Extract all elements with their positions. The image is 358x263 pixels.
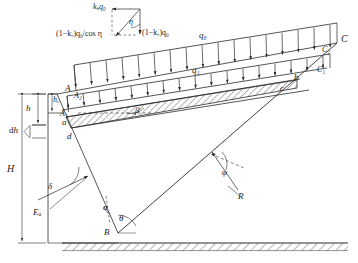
label-kh-q0: khq₀ (93, 3, 106, 12)
label-point-A2: A₂ (74, 92, 82, 100)
label-point-A: A (65, 84, 71, 93)
label-point-C1: C₁ (317, 66, 325, 74)
label-point-C: C (341, 34, 348, 44)
label-resultant-component: (1−kv)q₀/cos η (56, 30, 102, 39)
label-point-c: c (280, 84, 284, 93)
label-dim-hc: hc (53, 96, 59, 105)
label-point-d: d (67, 132, 72, 141)
label-vertical-component: (1−kv)q₀ (142, 29, 169, 38)
label-point-B: B (104, 228, 110, 237)
label-q0: q₀ (199, 31, 207, 40)
phi-dashed-normal (211, 154, 244, 168)
label-dim-h: h (26, 104, 31, 113)
failure-surface-BC (118, 43, 337, 233)
label-angle-phi: φ (222, 168, 227, 177)
label-q1: q₁ (192, 66, 200, 75)
diagram-svg (0, 0, 358, 263)
force-Ea (38, 167, 88, 209)
line-d-b (71, 90, 309, 128)
resultant-arrow (116, 9, 140, 36)
label-eta-angle: η (129, 18, 133, 26)
force-R (211, 152, 244, 196)
label-angle-delta: αδ (48, 182, 52, 191)
label-force-Ea: Ea (33, 208, 41, 218)
label-angle-beta: β (135, 106, 139, 115)
label-point-C2: C₂ (322, 46, 330, 54)
label-point-b: b (294, 73, 299, 82)
label-dim-H: H (7, 164, 14, 174)
seismic-force-triangle (112, 9, 140, 36)
Ea-leader (50, 178, 86, 209)
ground-hatching (62, 243, 348, 251)
label-dim-dh: ddhh (9, 126, 18, 135)
label-angle-theta: θ (119, 214, 123, 223)
Ea-arrow (38, 176, 88, 200)
label-force-R: R (238, 192, 244, 201)
dimension-lines (18, 94, 57, 243)
label-point-a: a (62, 118, 67, 127)
line-a-c (66, 79, 300, 117)
label-angle-alpha: α (103, 203, 108, 212)
figure-canvas: khq₀ (1−kv)q₀ (1−kv)q₀/cos η η q₀ q₁ A A… (0, 0, 358, 263)
